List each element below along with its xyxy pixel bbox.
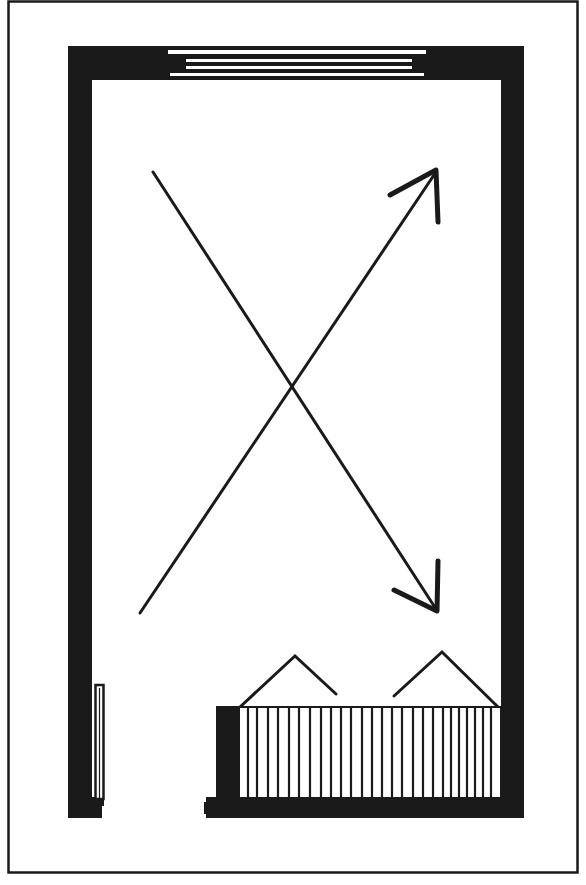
arrow-down-right-icon [153,172,438,611]
chair-right-icon [394,652,498,707]
thick-walls [68,46,524,818]
arrow-up-right-icon [140,170,438,613]
circulation-arrows [140,170,438,613]
floor-plan-diagram [0,0,586,885]
radiator [239,707,501,798]
chair-left-icon [240,656,336,707]
chairs [240,652,498,707]
door [96,685,104,799]
window [166,46,428,80]
